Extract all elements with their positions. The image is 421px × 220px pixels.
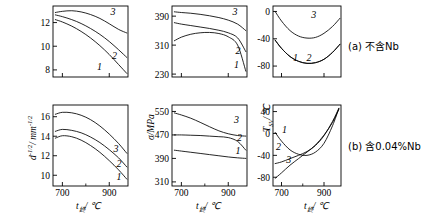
- y-tick-label: 10: [41, 171, 51, 181]
- plot-frame: [273, 105, 341, 186]
- curve-label-3: 3: [110, 6, 116, 17]
- caption-row-b: (b) 含0.04%Nb: [348, 138, 421, 153]
- curve-label-1: 1: [236, 145, 241, 156]
- data-curve-1: [275, 11, 340, 38]
- y-tick-label: 470: [155, 130, 170, 140]
- yaxis-title-grainsize-unit: / mm: [28, 126, 38, 145]
- xaxis-title-col1: t终/ ℃: [76, 200, 101, 214]
- y-tick-label: 14: [41, 132, 51, 142]
- y-tick-label: 12: [41, 151, 51, 161]
- yaxis-title-grainsize-unit-exponent: -1/2: [26, 116, 33, 126]
- y-tick-label: -40: [257, 151, 270, 161]
- plot-frame: [53, 6, 128, 77]
- xaxis-title-col2: t终/ ℃: [196, 200, 221, 214]
- x-tick-label: 700: [274, 188, 289, 198]
- plot-frame: [273, 6, 341, 77]
- curve-group: [55, 11, 126, 74]
- x-tick-label: 900: [102, 188, 117, 198]
- y-tick-label: 12: [41, 18, 51, 28]
- yaxis-title-grainsize: d-1/2/ mm-1/2: [26, 116, 38, 160]
- plot-panel-a-tsv: 0-40-80123: [257, 6, 341, 77]
- y-tick-label: 310: [155, 177, 170, 187]
- yaxis-title-tsv: TSV/ ℃: [261, 104, 274, 132]
- y-tick-label: -80: [257, 61, 270, 71]
- yaxis-title-tsv-unit: / ℃: [262, 104, 272, 120]
- plot-panel-b-grainsize: 10121416700900123: [41, 105, 129, 198]
- x-tick-label: 900: [221, 188, 236, 198]
- y-tick-label: 550: [155, 107, 170, 117]
- y-tick-label: -80: [257, 173, 270, 183]
- curve-label-3: 3: [233, 114, 239, 125]
- curve-label-2: 2: [307, 52, 312, 63]
- plot-panel-b-strength: 310390470550700900123: [155, 105, 247, 198]
- curve-group: [275, 108, 339, 178]
- yaxis-title-grainsize-symbol: d: [28, 155, 38, 160]
- y-tick-label: 16: [41, 112, 51, 122]
- curve-label-3: 3: [232, 6, 238, 17]
- y-tick-label: 390: [155, 12, 170, 22]
- x-tick-label: 900: [317, 188, 332, 198]
- xaxis-title-col2-unit: / ℃: [205, 201, 221, 211]
- xaxis-title-col3: t终/ ℃: [304, 200, 329, 214]
- yaxis-title-grainsize-exponent: -1/2: [26, 145, 33, 155]
- curve-label-2: 2: [236, 45, 241, 56]
- curve-label-1: 1: [293, 52, 298, 63]
- curve-label-1: 1: [282, 124, 287, 135]
- yaxis-title-tsv-subscript: SV: [267, 120, 274, 127]
- xaxis-title-col3-unit: / ℃: [313, 201, 329, 211]
- curve-label-1: 1: [117, 171, 122, 182]
- plot-panel-a-strength: 230310390123: [155, 6, 247, 80]
- x-tick-label: 700: [55, 188, 70, 198]
- y-tick-label: -40: [257, 34, 270, 44]
- y-tick-label: 230: [155, 70, 170, 80]
- plot-panel-a-grainsize: 81012123: [41, 6, 129, 77]
- curve-label-2: 2: [237, 132, 242, 143]
- xaxis-title-col1-unit: / ℃: [85, 201, 101, 211]
- curve-label-2: 2: [112, 50, 117, 61]
- curve-label-3: 3: [310, 9, 316, 20]
- curve-label-3: 3: [113, 143, 119, 154]
- caption-row-a: (a) 不含Nb: [348, 38, 399, 53]
- data-curve-3: [275, 109, 339, 178]
- yaxis-title-strength: σ/MPa: [146, 114, 156, 140]
- y-tick-label: 10: [41, 42, 51, 52]
- yaxis-title-tsv-symbol: T: [262, 127, 272, 132]
- x-tick-label: 700: [174, 188, 189, 198]
- y-tick-label: 8: [45, 65, 50, 75]
- y-tick-label: 0: [265, 7, 270, 17]
- curve-label-1: 1: [97, 61, 102, 72]
- curve-label-2: 2: [117, 158, 122, 169]
- curve-label-1: 1: [234, 59, 239, 70]
- curve-label-3: 3: [285, 154, 291, 165]
- y-tick-label: 390: [155, 154, 170, 164]
- y-tick-label: 310: [155, 41, 170, 51]
- data-curve-3: [55, 11, 126, 33]
- curve-label-2: 2: [276, 141, 281, 152]
